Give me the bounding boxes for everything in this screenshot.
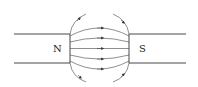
field-lines: [70, 14, 129, 82]
south-label: S: [139, 43, 146, 54]
south-magnet: [129, 34, 186, 63]
magnetic-field-diagram: N S: [0, 0, 198, 87]
north-label: N: [53, 43, 62, 54]
